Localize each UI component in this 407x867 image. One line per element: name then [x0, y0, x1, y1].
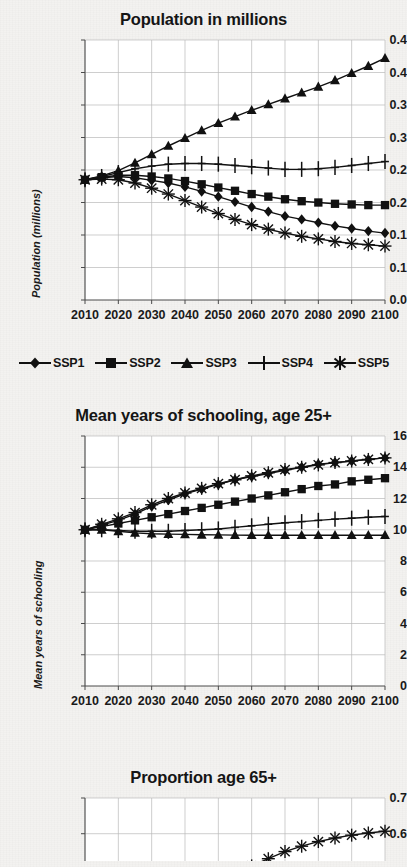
- x-tick-label: 2090: [338, 309, 366, 322]
- x-tick-label: 2020: [104, 695, 132, 708]
- legend-label-ssp5: SSP5: [358, 356, 389, 370]
- y-tick-label: 0.1: [329, 229, 407, 242]
- y-tick-label: 0.4: [329, 34, 407, 47]
- chart-title-population: Population in millions: [0, 10, 407, 28]
- chart-title-proportion65: Proportion age 65+: [0, 768, 407, 786]
- y-tick-label: 16: [329, 430, 407, 443]
- y-tick-label: 0.7: [329, 792, 407, 805]
- y-tick-label: 8: [329, 555, 407, 568]
- y-tick-label: 0.4: [329, 66, 407, 79]
- x-tick-label: 2040: [171, 309, 199, 322]
- plot-area-population: Population (millions) 0.00.10.10.20.20.3…: [0, 28, 407, 338]
- legend-marker-asterisk-icon: [323, 355, 357, 371]
- y-tick-label: 0.3: [329, 99, 407, 112]
- y-tick-label: 14: [329, 461, 407, 474]
- x-tick-label: 2070: [271, 695, 299, 708]
- y-tick-label: 0.6: [329, 828, 407, 841]
- y-tick-label: 0: [329, 680, 407, 693]
- y-axis-label-schooling: Mean years of schooling: [32, 561, 44, 689]
- chart-panel-population: Population in millions Population (milli…: [0, 10, 407, 390]
- legend-label-ssp3: SSP3: [205, 356, 236, 370]
- x-tick-label: 2100: [371, 309, 399, 322]
- y-tick-label: 10: [329, 524, 407, 537]
- figure-page: Population in millions Population (milli…: [0, 0, 407, 867]
- x-tick-label: 2050: [204, 695, 232, 708]
- legend-label-ssp4: SSP4: [282, 356, 313, 370]
- legend-marker-plus-icon: [247, 355, 281, 371]
- y-tick-label: 4: [329, 617, 407, 630]
- y-tick-label: 12: [329, 492, 407, 505]
- legend-item-ssp4[interactable]: SSP4: [247, 355, 313, 371]
- x-tick-label: 2010: [71, 695, 99, 708]
- legend-item-ssp3[interactable]: SSP3: [170, 355, 236, 371]
- y-tick-label: 0.3: [329, 131, 407, 144]
- x-tick-label: 2020: [104, 309, 132, 322]
- y-tick-label: 0.2: [329, 196, 407, 209]
- y-tick-label: 2: [329, 649, 407, 662]
- legend-label-ssp1: SSP1: [53, 356, 84, 370]
- chart-panel-proportion65: Proportion age 65+ 0.60.7: [0, 768, 407, 867]
- legend-item-ssp2[interactable]: SSP2: [94, 355, 160, 371]
- x-tick-label: 2010: [71, 309, 99, 322]
- plot-area-schooling: Mean years of schooling 0246810121416201…: [0, 424, 407, 724]
- x-tick-label: 2060: [238, 695, 266, 708]
- x-tick-label: 2100: [371, 695, 399, 708]
- y-tick-label: 0.2: [329, 164, 407, 177]
- legend-label-ssp2: SSP2: [129, 356, 160, 370]
- x-tick-label: 2060: [238, 309, 266, 322]
- x-tick-label: 2090: [338, 695, 366, 708]
- y-axis-label-population: Population (millions): [30, 189, 42, 298]
- legend-marker-triangle-icon: [170, 355, 204, 371]
- legend-marker-diamond-icon: [18, 355, 52, 371]
- x-tick-label: 2080: [304, 309, 332, 322]
- chart-title-schooling: Mean years of schooling, age 25+: [0, 406, 407, 424]
- x-tick-label: 2030: [138, 695, 166, 708]
- y-tick-label: 0.1: [329, 261, 407, 274]
- x-tick-label: 2030: [138, 309, 166, 322]
- legend-item-ssp1[interactable]: SSP1: [18, 355, 84, 371]
- x-tick-label: 2080: [304, 695, 332, 708]
- x-tick-label: 2040: [171, 695, 199, 708]
- legend-marker-square-icon: [94, 355, 128, 371]
- x-tick-label: 2070: [271, 309, 299, 322]
- x-tick-label: 2050: [204, 309, 232, 322]
- y-tick-label: 0.0: [329, 294, 407, 307]
- legend-ssp: SSP1 SSP2 SSP3: [0, 355, 407, 371]
- legend-item-ssp5[interactable]: SSP5: [323, 355, 389, 371]
- plot-area-proportion65: 0.60.7: [0, 786, 407, 861]
- y-tick-label: 6: [329, 586, 407, 599]
- chart-panel-schooling: Mean years of schooling, age 25+ Mean ye…: [0, 406, 407, 746]
